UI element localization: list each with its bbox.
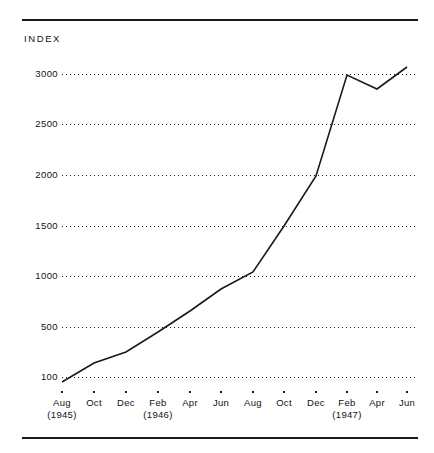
x-axis-year-label: (1947) [332, 410, 361, 421]
x-axis-tick-dot [125, 391, 127, 393]
x-axis-tick-label: Aug [53, 398, 71, 409]
x-axis-tick-dot [406, 391, 408, 393]
x-axis-tick-label: Apr [182, 398, 198, 409]
x-axis-tick-label: Feb [338, 398, 355, 409]
x-axis-tick-dot [315, 391, 317, 393]
x-axis-ticks: Aug(1945)OctDecFeb(1946)AprJunAugOctDecF… [0, 0, 434, 453]
chart-figure: INDEX 30002500200015001000500100 Aug(194… [0, 0, 434, 453]
x-axis-tick-dot [157, 391, 159, 393]
x-axis-tick-dot [252, 391, 254, 393]
x-axis-tick-dot [346, 391, 348, 393]
x-axis-tick-label: Aug [244, 398, 262, 409]
x-axis-tick-dot [93, 391, 95, 393]
x-axis-tick-dot [220, 391, 222, 393]
x-axis-tick-dot [189, 391, 191, 393]
x-axis-tick-label: Jun [399, 398, 415, 409]
x-axis-tick-label: Oct [86, 398, 102, 409]
x-axis-tick-label: Dec [307, 398, 325, 409]
x-axis-tick-label: Apr [369, 398, 385, 409]
x-axis-tick-label: Feb [149, 398, 166, 409]
x-axis-tick-label: Oct [276, 398, 292, 409]
x-axis-year-label: (1946) [143, 410, 172, 421]
x-axis-year-label: (1945) [47, 410, 76, 421]
x-axis-tick-dot [61, 391, 63, 393]
x-axis-tick-dot [376, 391, 378, 393]
x-axis-tick-label: Jun [213, 398, 229, 409]
x-axis-tick-label: Dec [117, 398, 135, 409]
x-axis-tick-dot [283, 391, 285, 393]
